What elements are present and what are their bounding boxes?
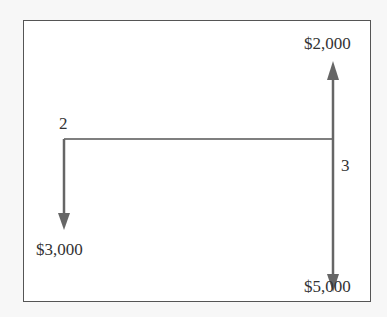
cash-flow-amount-5000: $5,000 [304, 278, 351, 295]
arrow-down-icon [327, 139, 339, 292]
arrow-up-icon [327, 61, 339, 139]
cash-flow-amount-3000: $3,000 [36, 241, 83, 258]
arrow-down-icon [58, 139, 70, 230]
cash-flow-amount-2000: $2,000 [304, 35, 351, 52]
period-label-start: 2 [59, 115, 68, 132]
period-label-end: 3 [341, 157, 350, 174]
